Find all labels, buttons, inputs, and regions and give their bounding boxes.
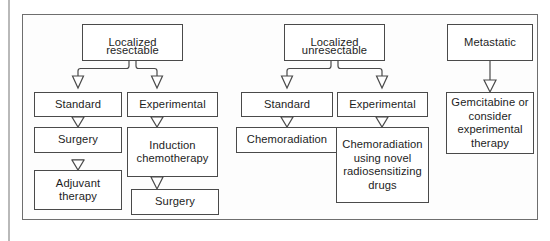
node-unres-chemoradiation-label: Chemoradiation: [244, 133, 330, 147]
node-res-surgery[interactable]: Surgery: [34, 127, 122, 153]
page-spine-rule: [8, 0, 10, 241]
node-localized-unresectable-label2: unresectable: [299, 44, 370, 58]
node-res-surgery2-label: Surgery: [152, 195, 198, 209]
node-localized-resectable-label2: resectable: [103, 44, 162, 58]
node-unres-chemoradiation-novel[interactable]: Chemoradiation using novel radiosensitiz…: [336, 127, 429, 203]
node-unres-experimental-label: Experimental: [346, 98, 419, 112]
node-res-standard-label: Standard: [52, 98, 104, 112]
node-res-standard[interactable]: Standard: [34, 92, 122, 117]
node-unres-standard[interactable]: Standard: [241, 92, 333, 117]
node-res-surgery2[interactable]: Surgery: [131, 189, 219, 215]
node-res-adjuvant-therapy-label: Adjuvant therapy: [35, 177, 121, 204]
node-unres-standard-label: Standard: [261, 98, 313, 112]
node-res-induction-chemotherapy-label: Induction chemotherapy: [128, 139, 217, 166]
node-res-adjuvant-therapy[interactable]: Adjuvant therapy: [34, 170, 122, 210]
node-res-experimental[interactable]: Experimental: [127, 92, 218, 117]
node-res-induction-chemotherapy[interactable]: Induction chemotherapy: [127, 127, 218, 177]
node-res-surgery-label: Surgery: [55, 133, 101, 147]
node-localized-resectable-line2: resectable: [82, 24, 183, 61]
node-unres-chemoradiation[interactable]: Chemoradiation: [236, 127, 338, 153]
node-localized-unresectable-line2: unresectable: [284, 24, 385, 61]
node-unres-experimental[interactable]: Experimental: [337, 92, 428, 117]
node-metastatic-label: Metastatic: [461, 36, 519, 50]
node-met-gemcitabine-label: Gemcitabine or consider experimental the…: [447, 96, 533, 150]
node-metastatic[interactable]: Metastatic: [447, 24, 533, 61]
node-unres-chemoradiation-novel-label: Chemoradiation using novel radiosensitiz…: [337, 138, 428, 192]
node-res-experimental-label: Experimental: [136, 98, 209, 112]
figure-page: .ln { fill:none; stroke:#4a4a4a; stroke-…: [0, 0, 550, 241]
node-met-gemcitabine[interactable]: Gemcitabine or consider experimental the…: [446, 92, 534, 154]
